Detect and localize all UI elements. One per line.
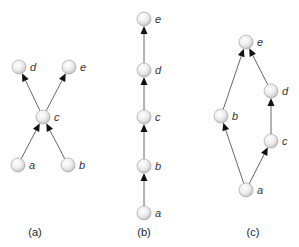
node-label-e: e	[257, 36, 263, 48]
node-label-c: c	[155, 111, 161, 123]
diagram-c: abcde(c)	[214, 35, 289, 238]
node-label-c: c	[282, 135, 288, 147]
diagram-caption: (c)	[247, 226, 260, 238]
node-label-c: c	[54, 111, 60, 123]
arrowhead-icon	[141, 124, 148, 132]
edge-b-e	[223, 56, 241, 109]
edge-a-c	[249, 154, 264, 183]
node-label-e: e	[155, 13, 161, 25]
arrowhead-icon	[141, 173, 148, 181]
arrowhead-icon	[268, 98, 275, 106]
edge-c-d	[25, 81, 39, 111]
node-b	[61, 158, 75, 172]
node-c	[137, 110, 151, 124]
node-d	[12, 60, 26, 74]
diagram-caption: (a)	[28, 226, 41, 238]
node-b	[137, 159, 151, 173]
edge-d-e	[253, 55, 268, 84]
node-e	[239, 35, 253, 49]
diagram-caption: (b)	[137, 226, 150, 238]
node-e	[62, 60, 76, 74]
node-a	[11, 158, 25, 172]
node-label-a: a	[155, 207, 161, 219]
node-label-b: b	[232, 110, 238, 122]
node-label-b: b	[155, 160, 161, 172]
arrowhead-icon	[222, 123, 229, 132]
node-label-d: d	[30, 61, 37, 73]
node-e	[137, 12, 151, 26]
node-b	[214, 109, 228, 123]
node-label-d: d	[155, 64, 162, 76]
node-label-a: a	[257, 184, 263, 196]
edge-b-c	[50, 130, 65, 158]
diagram-b: abcde(b)	[137, 12, 162, 238]
node-label-d: d	[282, 85, 289, 97]
diagram-a: abcde(a)	[11, 60, 86, 238]
node-d	[264, 84, 278, 98]
edge-c-e	[46, 80, 62, 110]
edge-a-b	[226, 130, 244, 183]
node-c	[264, 134, 278, 148]
arrowhead-icon	[141, 77, 148, 85]
arrowhead-icon	[238, 49, 245, 58]
arrowhead-icon	[141, 26, 148, 34]
node-d	[137, 63, 151, 77]
node-a	[137, 206, 151, 220]
node-label-a: a	[29, 159, 35, 171]
node-c	[36, 110, 50, 124]
poset-diagrams: abcde(a) abcde(b) abcde(c)	[0, 0, 299, 247]
node-a	[239, 183, 253, 197]
node-label-e: e	[80, 61, 86, 73]
edge-a-c	[21, 130, 36, 158]
node-label-b: b	[79, 159, 85, 171]
